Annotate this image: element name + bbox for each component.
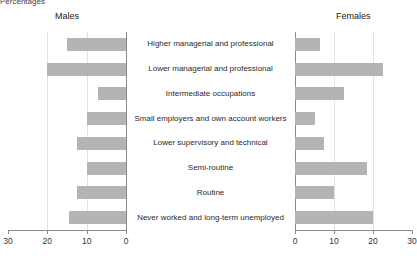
axis-tick-label: 30 <box>3 236 12 246</box>
axis-unit-label: Percentages <box>0 0 45 6</box>
category-label: Small employers and own account workers <box>129 114 292 124</box>
axis-line-females <box>295 230 412 231</box>
category-label: Higher managerial and professional <box>129 39 292 49</box>
category-label-list: Higher managerial and professionalLower … <box>129 32 292 230</box>
category-label: Never worked and long-term unemployed <box>129 213 292 223</box>
panel-title-males: Males <box>55 11 79 21</box>
bar-females <box>295 162 367 175</box>
bar-females <box>295 186 334 199</box>
bar-females <box>295 137 324 150</box>
plot-area-females: 0102030 <box>295 32 412 230</box>
axis-tick-label: 0 <box>124 236 129 246</box>
axis-tick <box>126 230 127 234</box>
chart-container: Percentages Males Females 3020100 010203… <box>0 0 417 262</box>
category-label: Semi-routine <box>129 163 292 173</box>
bar-females <box>295 38 320 51</box>
bar-males <box>69 211 126 224</box>
bar-males <box>87 112 126 125</box>
bar-females <box>295 63 383 76</box>
axis-tick-label: 10 <box>82 236 91 246</box>
bar-males <box>87 162 126 175</box>
category-label: Lower supervisory and technical <box>129 138 292 148</box>
axis-tick-label: 10 <box>329 236 338 246</box>
axis-baseline-males <box>126 32 127 230</box>
category-label: Intermediate occupations <box>129 89 292 99</box>
axis-tick-label: 30 <box>407 236 416 246</box>
axis-tick-label: 0 <box>293 236 298 246</box>
axis-line-males <box>8 230 126 231</box>
bar-males <box>47 63 126 76</box>
plot-area-males: 3020100 <box>8 32 126 230</box>
bar-males <box>98 87 126 100</box>
axis-tick-label: 20 <box>43 236 52 246</box>
panel-title-females: Females <box>336 11 371 21</box>
axis-tick-label: 20 <box>368 236 377 246</box>
category-label: Lower managerial and professional <box>129 64 292 74</box>
axis-tick <box>412 230 413 234</box>
bar-males <box>67 38 126 51</box>
bar-males <box>77 186 126 199</box>
bar-males <box>77 137 126 150</box>
bar-females <box>295 211 373 224</box>
bar-females <box>295 87 344 100</box>
bar-females <box>295 112 315 125</box>
category-label: Routine <box>129 188 292 198</box>
